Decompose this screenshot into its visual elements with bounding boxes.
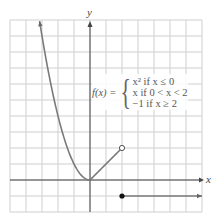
closed-endpoint [119, 193, 124, 198]
piece-x-squared [40, 21, 90, 180]
function-definition: f(x) = { x² if x ≤ 0 x if 0 < x < 2 −1 i… [92, 74, 188, 110]
y-axis-arrow-icon [88, 21, 93, 27]
line-arrow-icon [197, 194, 202, 198]
open-endpoint [119, 145, 124, 150]
grid [10, 20, 202, 212]
case-2: x if 0 < x < 2 [133, 87, 188, 98]
piecewise-plot: x y [0, 0, 215, 221]
cases-list: x² if x ≤ 0 x if 0 < x < 2 −1 if x ≥ 2 [133, 76, 188, 109]
brace-icon: { [121, 74, 131, 110]
function-label: f(x) = [92, 87, 116, 98]
case-3: −1 if x ≥ 2 [133, 98, 188, 109]
case-1: x² if x ≤ 0 [133, 76, 188, 87]
x-axis-label: x [205, 173, 211, 185]
y-axis-label: y [86, 6, 92, 18]
